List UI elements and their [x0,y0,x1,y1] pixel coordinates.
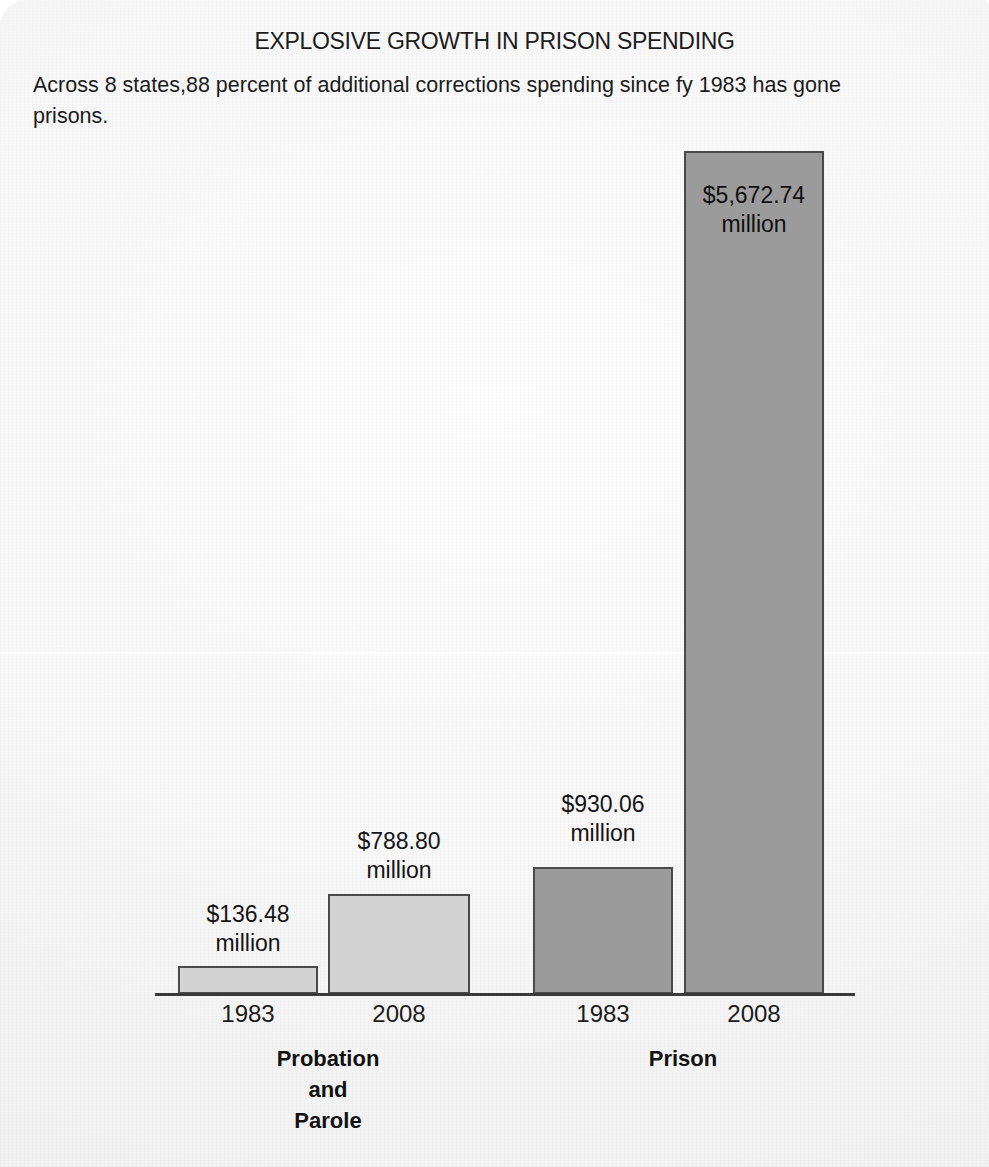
group-label-prison: Prison [598,1043,768,1074]
group-label-probation-and-parole: Probation and Parole [243,1043,413,1136]
x-tick-label-3: 1983 [523,1000,683,1028]
bar-chart-plot: $136.48 million $788.80 million $930.06 … [0,0,989,1167]
bar-prison-1983 [533,867,673,994]
chart-page: EXPLOSIVE GROWTH IN PRISON SPENDING Acro… [0,0,989,1167]
bar-value-prison-2008: $5,672.74 million [674,181,834,239]
bar-probation-1983 [178,966,318,994]
x-tick-label-2: 2008 [319,1000,479,1028]
bar-value-prison-1983: $930.06 million [523,790,683,848]
bar-value-probation-1983: $136.48 million [168,900,328,958]
x-tick-label-4: 2008 [674,1000,834,1028]
bar-prison-2008 [684,151,824,994]
bar-value-probation-2008: $788.80 million [318,827,480,885]
bar-probation-2008 [328,894,470,994]
x-axis-line [155,993,855,996]
x-tick-label-1: 1983 [168,1000,328,1028]
